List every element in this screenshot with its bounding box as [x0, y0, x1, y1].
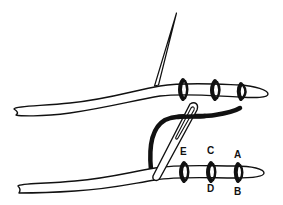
bottom-cord: [18, 166, 264, 194]
label-a: A: [234, 149, 241, 160]
stitch-diagram: E C A D B: [0, 0, 283, 205]
thread-overlap: [178, 116, 205, 117]
label-d: D: [207, 183, 214, 194]
top-needle-icon: [155, 13, 177, 86]
label-b: B: [234, 186, 241, 197]
label-c: C: [207, 145, 214, 156]
label-e: E: [180, 146, 187, 157]
